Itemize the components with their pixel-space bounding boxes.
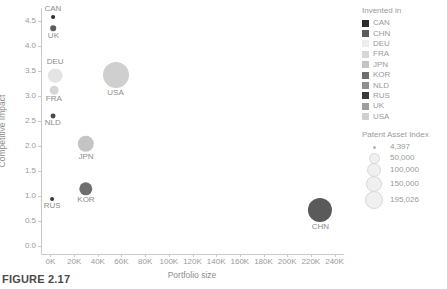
size-legend: Patent Asset Index 4,39750,000100,000150… <box>362 131 447 209</box>
legend-item-label: JPN <box>373 61 388 69</box>
data-point-label-chn: CHN <box>312 223 329 231</box>
size-legend-bubble-cell <box>362 146 386 149</box>
data-point-jpn[interactable] <box>78 135 94 151</box>
data-point-chn[interactable] <box>308 198 332 222</box>
size-legend-bubble-icon <box>373 146 376 149</box>
x-tick-label: 80K <box>138 258 152 266</box>
size-legend-bubble-cell <box>362 191 386 209</box>
y-tick-mark <box>38 121 41 122</box>
x-tick-label: 160K <box>231 258 250 266</box>
legend-item-nld[interactable]: NLD <box>362 80 447 90</box>
data-point-label-nld: NLD <box>45 119 61 127</box>
data-point-label-jpn: JPN <box>78 153 93 161</box>
y-tick-label: 2.0 <box>25 142 36 150</box>
size-legend-bubble-icon <box>366 176 382 192</box>
y-tick-mark <box>38 71 41 72</box>
legend-swatch-icon <box>362 40 369 47</box>
legend-item-usa[interactable]: USA <box>362 112 447 122</box>
y-axis-title: Competitive Impact <box>0 95 7 168</box>
x-tick-label: 0K <box>46 258 56 266</box>
legend-item-chn[interactable]: CHN <box>362 28 447 38</box>
size-legend-label: 50,000 <box>390 154 414 162</box>
data-point-deu[interactable] <box>48 68 63 83</box>
x-tick-label: 100K <box>159 258 178 266</box>
data-point-label-can: CAN <box>44 5 61 13</box>
size-legend-bubble-cell <box>362 163 386 177</box>
size-legend-bubble-icon <box>367 163 381 177</box>
legend-swatch-icon <box>362 20 369 27</box>
legend-item-jpn[interactable]: JPN <box>362 60 447 70</box>
y-tick-label: 3.0 <box>25 92 36 100</box>
legend-item-fra[interactable]: FRA <box>362 49 447 59</box>
x-tick-label: 140K <box>207 258 226 266</box>
y-tick-label: 4.5 <box>25 17 36 25</box>
legend-swatch-icon <box>362 92 369 99</box>
legend-item-kor[interactable]: KOR <box>362 70 447 80</box>
y-tick-label: 0.5 <box>25 217 36 225</box>
x-tick-label: 200K <box>278 258 297 266</box>
x-axis-title: Portfolio size <box>168 270 217 280</box>
data-point-label-usa: USA <box>107 89 123 97</box>
size-legend-bubble-icon <box>365 191 383 209</box>
size-legend-bubble-cell <box>362 176 386 192</box>
y-tick-mark <box>38 196 41 197</box>
legend-title: Invented in <box>362 7 447 15</box>
legend-swatch-icon <box>362 113 369 120</box>
legend-swatch-icon <box>362 61 369 68</box>
x-tick-label: 20K <box>67 258 81 266</box>
data-point-label-fra: FRA <box>46 95 62 103</box>
y-tick-label: 2.5 <box>25 117 36 125</box>
legend-item-deu[interactable]: DEU <box>362 39 447 49</box>
data-point-label-rus: RUS <box>44 202 61 210</box>
x-tick-label: 240K <box>325 258 344 266</box>
legend-item-uk[interactable]: UK <box>362 101 447 111</box>
size-legend-title: Patent Asset Index <box>362 131 447 139</box>
y-tick-mark <box>38 46 41 47</box>
y-tick-mark <box>38 171 41 172</box>
figure-caption: FIGURE 2.17 <box>2 274 70 285</box>
legend-item-label: DEU <box>373 40 390 48</box>
size-legend-label: 4,397 <box>390 143 410 151</box>
data-point-kor[interactable] <box>79 182 92 195</box>
legend-swatch-icon <box>362 103 369 110</box>
y-tick-label: 4.0 <box>25 42 36 50</box>
data-point-can[interactable] <box>51 15 55 19</box>
legend-swatch-icon <box>362 30 369 37</box>
size-legend-label: 100,000 <box>390 166 419 174</box>
y-tick-label: 0.0 <box>25 242 36 250</box>
x-tick-label: 120K <box>183 258 202 266</box>
y-axis-line <box>41 8 42 254</box>
y-tick-mark <box>38 246 41 247</box>
size-legend-item: 50,000 <box>362 153 447 164</box>
scatter-plot-area: 0.00.51.01.52.02.53.03.54.04.5 0K20K40K6… <box>41 8 344 254</box>
y-tick-mark <box>38 96 41 97</box>
data-point-label-uk: UK <box>48 32 59 40</box>
y-tick-label: 3.5 <box>25 67 36 75</box>
legend-item-label: CHN <box>373 30 390 38</box>
size-legend-item: 150,000 <box>362 177 447 192</box>
size-legend-item: 100,000 <box>362 164 447 177</box>
legend-item-can[interactable]: CAN <box>362 18 447 28</box>
legend: Invented in CANCHNDEUFRAJPNKORNLDRUSUKUS… <box>362 7 447 209</box>
data-point-fra[interactable] <box>49 85 58 94</box>
legend-swatch-icon <box>362 72 369 79</box>
legend-swatch-icon <box>362 51 369 58</box>
x-tick-label: 180K <box>254 258 273 266</box>
y-tick-mark <box>38 146 41 147</box>
legend-item-label: RUS <box>373 92 390 100</box>
y-tick-mark <box>38 21 41 22</box>
legend-item-label: FRA <box>373 50 389 58</box>
legend-item-label: KOR <box>373 71 390 79</box>
size-legend-item: 195,026 <box>362 192 447 209</box>
size-legend-bubble-cell <box>362 153 386 164</box>
size-legend-label: 195,026 <box>390 196 419 204</box>
legend-swatch-icon <box>362 82 369 89</box>
legend-item-label: USA <box>373 113 389 121</box>
x-tick-label: 220K <box>302 258 321 266</box>
legend-item-rus[interactable]: RUS <box>362 91 447 101</box>
size-legend-label: 150,000 <box>390 180 419 188</box>
legend-item-label: CAN <box>373 19 390 27</box>
y-tick-label: 1.5 <box>25 167 36 175</box>
legend-item-label: NLD <box>373 82 389 90</box>
data-point-usa[interactable] <box>103 62 129 88</box>
